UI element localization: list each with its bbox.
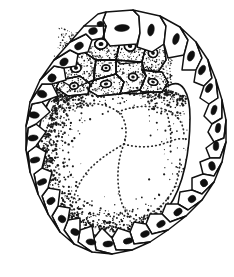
embryo-diagram [0, 0, 234, 277]
nucleolus [104, 67, 107, 70]
nucleus [213, 141, 219, 151]
figure-root [0, 0, 234, 277]
outer-epithelial-cell [103, 10, 140, 46]
